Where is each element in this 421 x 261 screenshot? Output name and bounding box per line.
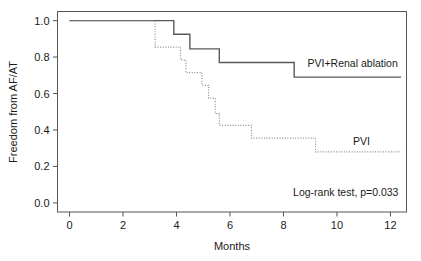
kaplan-meier-figure: 024681012 0.00.20.40.60.81.0 Months Free… (0, 0, 421, 261)
y-tick-label-0.0: 0.0 (34, 197, 49, 209)
x-tick-label-12: 12 (384, 219, 396, 231)
log-rank-annotation: Log-rank test, p=0.033 (293, 186, 399, 198)
x-tick-label-6: 6 (227, 219, 233, 231)
y-tick-label-0.6: 0.6 (34, 88, 49, 100)
series-label-pvi: PVI (353, 135, 370, 147)
x-tick-label-8: 8 (280, 219, 286, 231)
series-label-pvi-renal-ablation: PVI+Renal ablation (308, 57, 398, 69)
y-tick-label-1.0: 1.0 (34, 15, 49, 27)
survival-curve-chart: 024681012 0.00.20.40.60.81.0 Months Free… (0, 0, 421, 261)
y-tick-label-0.4: 0.4 (34, 124, 49, 136)
x-tick-label-2: 2 (120, 219, 126, 231)
x-tick-label-4: 4 (173, 219, 179, 231)
x-tick-label-0: 0 (66, 219, 72, 231)
figure-background (0, 0, 421, 261)
y-tick-label-0.8: 0.8 (34, 51, 49, 63)
y-axis-title: Freedom from AF/AT (7, 61, 19, 163)
x-axis-title: Months (214, 240, 251, 252)
x-tick-label-10: 10 (331, 219, 343, 231)
y-tick-label-0.2: 0.2 (34, 160, 49, 172)
chart-annotations: Log-rank test, p=0.033 (293, 186, 399, 198)
